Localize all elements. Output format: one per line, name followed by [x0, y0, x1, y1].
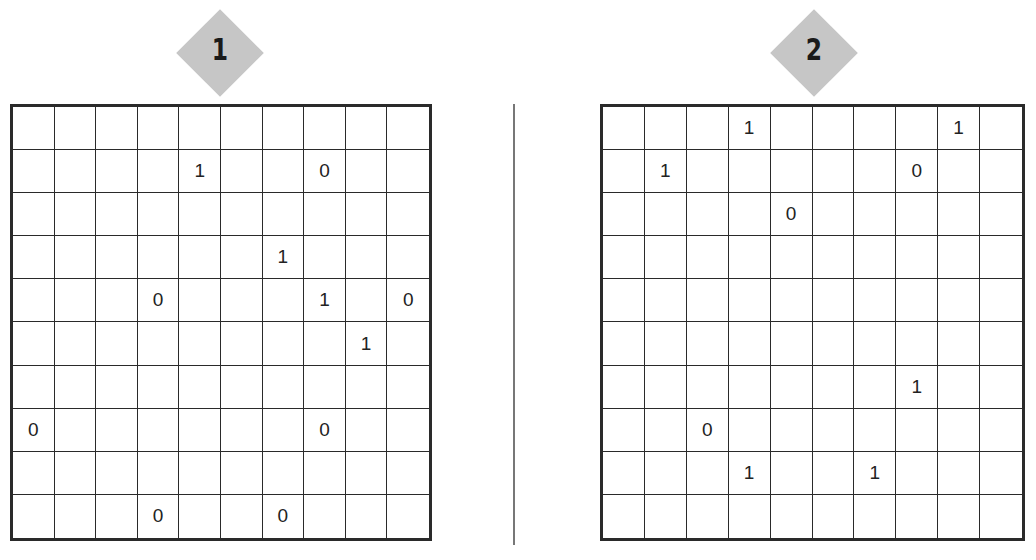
empty-cell[interactable]: [645, 452, 687, 495]
empty-cell[interactable]: [854, 193, 896, 236]
empty-cell[interactable]: [645, 322, 687, 365]
empty-cell[interactable]: [603, 150, 645, 193]
empty-cell[interactable]: [771, 236, 813, 279]
empty-cell[interactable]: [138, 107, 180, 150]
empty-cell[interactable]: [603, 495, 645, 538]
empty-cell[interactable]: [896, 193, 938, 236]
empty-cell[interactable]: [729, 150, 771, 193]
empty-cell[interactable]: [645, 236, 687, 279]
empty-cell[interactable]: [263, 409, 305, 452]
empty-cell[interactable]: [729, 193, 771, 236]
empty-cell[interactable]: [980, 279, 1022, 322]
empty-cell[interactable]: [603, 409, 645, 452]
empty-cell[interactable]: [771, 366, 813, 409]
empty-cell[interactable]: [179, 193, 221, 236]
empty-cell[interactable]: [980, 366, 1022, 409]
empty-cell[interactable]: [179, 107, 221, 150]
empty-cell[interactable]: [687, 107, 729, 150]
empty-cell[interactable]: [980, 236, 1022, 279]
empty-cell[interactable]: [13, 366, 55, 409]
empty-cell[interactable]: [179, 452, 221, 495]
empty-cell[interactable]: [771, 452, 813, 495]
empty-cell[interactable]: [603, 107, 645, 150]
empty-cell[interactable]: [387, 366, 429, 409]
empty-cell[interactable]: [221, 495, 263, 538]
empty-cell[interactable]: [55, 366, 97, 409]
empty-cell[interactable]: [729, 495, 771, 538]
empty-cell[interactable]: [687, 150, 729, 193]
empty-cell[interactable]: [687, 193, 729, 236]
empty-cell[interactable]: [179, 366, 221, 409]
empty-cell[interactable]: [179, 495, 221, 538]
empty-cell[interactable]: [96, 322, 138, 365]
empty-cell[interactable]: [221, 107, 263, 150]
empty-cell[interactable]: [771, 322, 813, 365]
empty-cell[interactable]: [96, 495, 138, 538]
empty-cell[interactable]: [138, 366, 180, 409]
empty-cell[interactable]: [263, 452, 305, 495]
empty-cell[interactable]: [813, 366, 855, 409]
empty-cell[interactable]: [896, 409, 938, 452]
empty-cell[interactable]: [304, 322, 346, 365]
empty-cell[interactable]: [854, 495, 896, 538]
empty-cell[interactable]: [771, 409, 813, 452]
empty-cell[interactable]: [938, 150, 980, 193]
empty-cell[interactable]: [813, 236, 855, 279]
empty-cell[interactable]: [603, 452, 645, 495]
empty-cell[interactable]: [346, 107, 388, 150]
empty-cell[interactable]: [179, 322, 221, 365]
empty-cell[interactable]: [645, 279, 687, 322]
empty-cell[interactable]: [854, 236, 896, 279]
empty-cell[interactable]: [980, 409, 1022, 452]
empty-cell[interactable]: [304, 107, 346, 150]
empty-cell[interactable]: [813, 107, 855, 150]
empty-cell[interactable]: [346, 193, 388, 236]
empty-cell[interactable]: [938, 193, 980, 236]
empty-cell[interactable]: [304, 193, 346, 236]
empty-cell[interactable]: [687, 495, 729, 538]
empty-cell[interactable]: [771, 279, 813, 322]
empty-cell[interactable]: [603, 193, 645, 236]
empty-cell[interactable]: [55, 279, 97, 322]
empty-cell[interactable]: [96, 452, 138, 495]
empty-cell[interactable]: [938, 236, 980, 279]
empty-cell[interactable]: [138, 409, 180, 452]
empty-cell[interactable]: [938, 452, 980, 495]
empty-cell[interactable]: [263, 322, 305, 365]
empty-cell[interactable]: [179, 236, 221, 279]
empty-cell[interactable]: [346, 236, 388, 279]
empty-cell[interactable]: [645, 366, 687, 409]
empty-cell[interactable]: [179, 279, 221, 322]
empty-cell[interactable]: [221, 452, 263, 495]
empty-cell[interactable]: [346, 150, 388, 193]
empty-cell[interactable]: [603, 322, 645, 365]
empty-cell[interactable]: [55, 452, 97, 495]
empty-cell[interactable]: [96, 409, 138, 452]
empty-cell[interactable]: [980, 193, 1022, 236]
empty-cell[interactable]: [138, 452, 180, 495]
empty-cell[interactable]: [221, 236, 263, 279]
empty-cell[interactable]: [813, 193, 855, 236]
empty-cell[interactable]: [96, 193, 138, 236]
empty-cell[interactable]: [55, 150, 97, 193]
empty-cell[interactable]: [96, 107, 138, 150]
empty-cell[interactable]: [938, 366, 980, 409]
empty-cell[interactable]: [221, 193, 263, 236]
empty-cell[interactable]: [980, 495, 1022, 538]
empty-cell[interactable]: [13, 107, 55, 150]
empty-cell[interactable]: [221, 150, 263, 193]
empty-cell[interactable]: [387, 322, 429, 365]
empty-cell[interactable]: [346, 279, 388, 322]
empty-cell[interactable]: [854, 366, 896, 409]
empty-cell[interactable]: [263, 150, 305, 193]
empty-cell[interactable]: [729, 322, 771, 365]
empty-cell[interactable]: [729, 279, 771, 322]
empty-cell[interactable]: [854, 322, 896, 365]
empty-cell[interactable]: [13, 452, 55, 495]
empty-cell[interactable]: [346, 366, 388, 409]
empty-cell[interactable]: [263, 107, 305, 150]
empty-cell[interactable]: [387, 236, 429, 279]
empty-cell[interactable]: [938, 409, 980, 452]
empty-cell[interactable]: [813, 279, 855, 322]
empty-cell[interactable]: [13, 236, 55, 279]
